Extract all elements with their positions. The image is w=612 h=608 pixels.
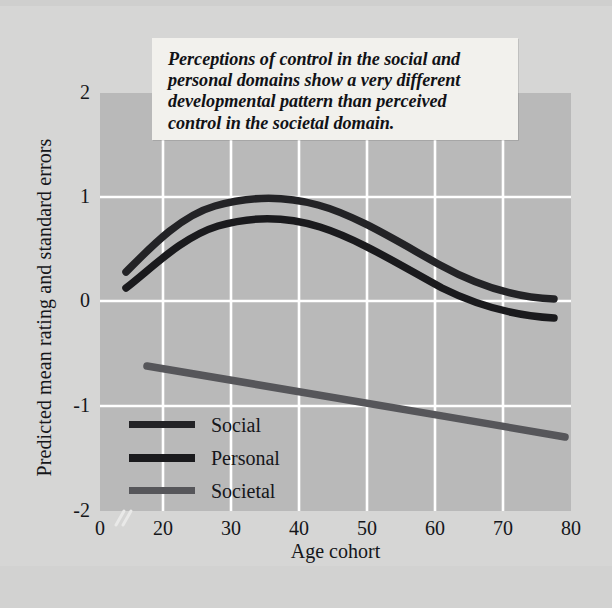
x-tick-label-50: 50 bbox=[344, 517, 390, 540]
x-tick-label-20: 20 bbox=[140, 517, 186, 540]
x-tick-label-30: 30 bbox=[208, 517, 254, 540]
plot-area: 2 1 0 -1 -2 0 20 30 40 50 60 70 80 Predi… bbox=[0, 0, 612, 608]
y-axis-title: Predicted mean rating and standard error… bbox=[33, 98, 56, 518]
x-tick-label-70: 70 bbox=[480, 517, 526, 540]
annotation-callout-text: Perceptions of control in the social and… bbox=[152, 38, 518, 134]
annotation-callout: Perceptions of control in the social and… bbox=[152, 38, 518, 140]
legend-label-social: Social bbox=[211, 415, 261, 435]
x-axis-title: Age cohort bbox=[100, 540, 571, 563]
legend-item-social: Social bbox=[129, 408, 280, 441]
legend-swatch-social-icon bbox=[129, 421, 195, 428]
x-tick-label-80: 80 bbox=[548, 517, 594, 540]
legend-item-societal: Societal bbox=[129, 474, 280, 507]
legend-item-personal: Personal bbox=[129, 441, 280, 474]
legend-swatch-personal-icon bbox=[129, 454, 195, 462]
figure-canvas: 2 1 0 -1 -2 0 20 30 40 50 60 70 80 Predi… bbox=[0, 0, 612, 608]
legend-swatch-societal-icon bbox=[129, 487, 195, 494]
legend-label-societal: Societal bbox=[211, 481, 275, 501]
x-tick-label-0: 0 bbox=[77, 517, 123, 540]
legend-label-personal: Personal bbox=[211, 448, 280, 468]
chart-legend: Social Personal Societal bbox=[129, 408, 280, 507]
x-tick-label-60: 60 bbox=[412, 517, 458, 540]
x-tick-label-40: 40 bbox=[276, 517, 322, 540]
